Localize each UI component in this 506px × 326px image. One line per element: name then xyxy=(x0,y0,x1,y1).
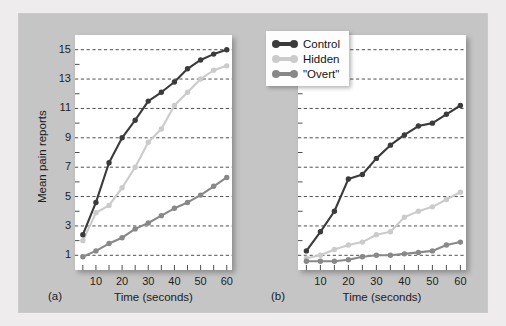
series-marker-2 xyxy=(132,226,137,231)
series-marker-1 xyxy=(388,229,393,234)
series-marker-1 xyxy=(318,253,323,258)
series-marker-2 xyxy=(304,258,309,263)
series-marker-1 xyxy=(360,239,365,244)
series-marker-2 xyxy=(346,257,351,262)
series-marker-0 xyxy=(185,66,190,71)
series-marker-0 xyxy=(346,176,351,181)
series-marker-0 xyxy=(458,103,463,108)
x-tick-label: 60 xyxy=(216,275,238,287)
series-marker-2 xyxy=(224,175,229,180)
series-marker-1 xyxy=(430,204,435,209)
panel-caption-b: (b) xyxy=(271,290,285,302)
series-marker-0 xyxy=(332,209,337,214)
legend-item-0: Control xyxy=(272,36,340,51)
series-line-0 xyxy=(83,50,227,235)
x-axis-title-a: Time (seconds) xyxy=(75,291,232,303)
series-marker-1 xyxy=(402,214,407,219)
series-marker-0 xyxy=(159,90,164,95)
series-marker-1 xyxy=(374,232,379,237)
chart-panel-a: 13579111315 Mean pain reports 1020304050… xyxy=(18,13,253,313)
series-marker-0 xyxy=(318,229,323,234)
series-marker-2 xyxy=(185,200,190,205)
series-marker-1 xyxy=(304,256,309,261)
x-tick-label: 10 xyxy=(309,275,331,287)
legend-label: Hidden xyxy=(303,53,339,65)
series-marker-2 xyxy=(458,239,463,244)
series-marker-1 xyxy=(185,90,190,95)
series-marker-2 xyxy=(93,248,98,253)
series-marker-2 xyxy=(80,254,85,259)
series-marker-0 xyxy=(198,57,203,62)
panel-caption-a: (a) xyxy=(48,290,62,302)
legend-item-1: Hidden xyxy=(272,51,340,66)
y-tick-label: 3 xyxy=(65,220,71,231)
x-tick-label: 50 xyxy=(190,275,212,287)
series-marker-2 xyxy=(146,220,151,225)
legend-swatch-icon xyxy=(272,53,298,64)
x-tick-label: 40 xyxy=(393,275,415,287)
legend-swatch-icon xyxy=(272,38,298,49)
y-tick-label: 15 xyxy=(59,44,71,55)
x-axis-title-b: Time (seconds) xyxy=(298,291,466,303)
x-tick-label: 60 xyxy=(449,275,471,287)
series-marker-1 xyxy=(159,126,164,131)
series-marker-0 xyxy=(93,200,98,205)
figure-plate: 13579111315 Mean pain reports 1020304050… xyxy=(18,13,488,313)
series-marker-2 xyxy=(444,242,449,247)
x-tick-label: 50 xyxy=(421,275,443,287)
series-marker-1 xyxy=(224,63,229,68)
series-marker-1 xyxy=(119,185,124,190)
series-marker-1 xyxy=(458,189,463,194)
series-marker-1 xyxy=(172,103,177,108)
series-marker-2 xyxy=(211,184,216,189)
y-axis-title-a: Mean pain reports xyxy=(36,110,48,203)
series-marker-1 xyxy=(332,247,337,252)
x-axis-tick-labels-b: 102030405060 xyxy=(298,275,466,289)
series-marker-0 xyxy=(119,135,124,140)
series-line-1 xyxy=(83,66,227,241)
series-marker-2 xyxy=(374,253,379,258)
y-tick-label: 9 xyxy=(65,132,71,143)
series-marker-0 xyxy=(132,117,137,122)
y-tick-label: 7 xyxy=(65,161,71,172)
series-marker-2 xyxy=(416,250,421,255)
x-tick-label: 40 xyxy=(163,275,185,287)
series-marker-0 xyxy=(416,123,421,128)
series-marker-1 xyxy=(198,76,203,81)
x-tick-label: 20 xyxy=(111,275,133,287)
y-tick-label: 1 xyxy=(65,249,71,260)
series-marker-0 xyxy=(80,232,85,237)
series-marker-0 xyxy=(224,47,229,52)
legend-label: "Overt" xyxy=(303,68,339,80)
series-marker-2 xyxy=(119,235,124,240)
series-marker-0 xyxy=(430,120,435,125)
series-marker-1 xyxy=(132,164,137,169)
series-marker-0 xyxy=(146,98,151,103)
y-tick-label: 13 xyxy=(59,73,71,84)
series-marker-2 xyxy=(318,258,323,263)
series-marker-2 xyxy=(106,241,111,246)
legend-label: Control xyxy=(303,38,340,50)
y-tick-label: 5 xyxy=(65,191,71,202)
series-marker-2 xyxy=(332,258,337,263)
x-axis-tick-labels-a: 102030405060 xyxy=(75,275,232,289)
series-marker-0 xyxy=(106,160,111,165)
series-line-0 xyxy=(306,106,460,251)
x-tick-label: 10 xyxy=(85,275,107,287)
series-marker-2 xyxy=(388,253,393,258)
series-marker-2 xyxy=(360,254,365,259)
series-marker-2 xyxy=(159,213,164,218)
x-tick-label: 20 xyxy=(337,275,359,287)
series-marker-1 xyxy=(211,68,216,73)
figure-root: 13579111315 Mean pain reports 1020304050… xyxy=(0,0,506,326)
series-marker-0 xyxy=(388,142,393,147)
legend-swatch-icon xyxy=(272,68,298,79)
series-marker-1 xyxy=(146,140,151,145)
series-line-1 xyxy=(306,192,460,258)
series-line-2 xyxy=(83,177,227,256)
y-axis-tick-labels-a: 13579111315 xyxy=(40,35,71,270)
series-marker-0 xyxy=(211,51,216,56)
legend-item-2: "Overt" xyxy=(272,66,340,81)
series-marker-0 xyxy=(402,132,407,137)
series-marker-0 xyxy=(304,248,309,253)
